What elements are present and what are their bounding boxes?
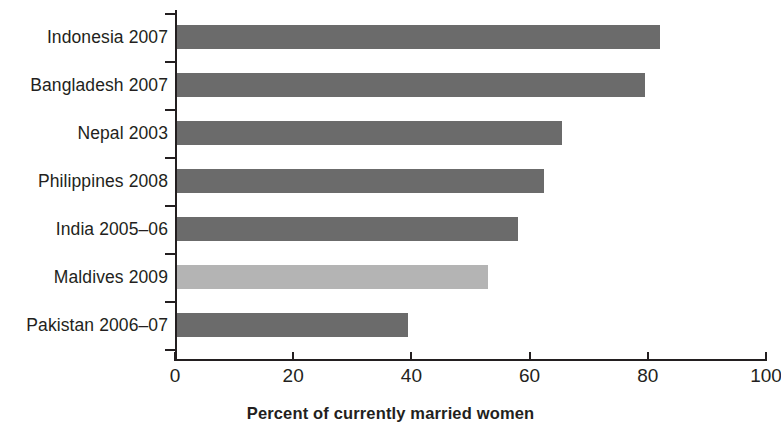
x-axis-title: Percent of currently married women [0, 404, 781, 423]
bar [177, 73, 645, 97]
x-axis-tick [529, 352, 531, 361]
category-label: India 2005–06 [56, 221, 168, 239]
x-axis-tick-label: 60 [519, 366, 540, 385]
x-axis-tick-label: 100 [750, 366, 781, 385]
x-axis-tick-label: 0 [170, 366, 181, 385]
chart-page: Indonesia 2007Bangladesh 2007Nepal 2003P… [0, 0, 781, 432]
y-axis-tick [165, 157, 176, 159]
category-label: Bangladesh 2007 [30, 77, 168, 95]
x-axis-line [175, 359, 766, 361]
y-axis-tick [165, 253, 176, 255]
y-axis-tick [165, 205, 176, 207]
x-axis-tick [174, 352, 176, 361]
y-axis-tick [165, 13, 176, 15]
bar [177, 313, 408, 337]
y-axis-tick [165, 349, 176, 351]
x-axis-tick [647, 352, 649, 361]
y-axis-tick [165, 109, 176, 111]
x-axis-tick-label: 40 [401, 366, 422, 385]
category-label: Indonesia 2007 [47, 29, 168, 47]
category-label: Philippines 2008 [38, 173, 168, 191]
bar [177, 121, 562, 145]
bar-chart: Indonesia 2007Bangladesh 2007Nepal 2003P… [0, 0, 781, 432]
bar [177, 25, 660, 49]
x-axis-tick-label: 20 [283, 366, 304, 385]
x-axis-tick [292, 352, 294, 361]
x-axis-tick [765, 352, 767, 361]
category-label: Maldives 2009 [54, 269, 168, 287]
category-label: Nepal 2003 [77, 125, 168, 143]
y-axis-tick [165, 301, 176, 303]
category-label: Pakistan 2006–07 [26, 317, 168, 335]
bar [177, 169, 544, 193]
bar [177, 265, 488, 289]
x-axis-tick-label: 80 [637, 366, 658, 385]
bar [177, 217, 518, 241]
x-axis-tick [410, 352, 412, 361]
y-axis-tick [165, 61, 176, 63]
